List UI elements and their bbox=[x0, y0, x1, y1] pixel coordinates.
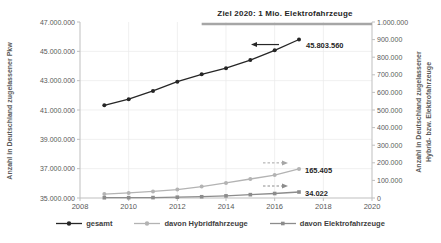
data-point bbox=[224, 66, 228, 70]
data-point bbox=[297, 190, 301, 194]
x-axis-tick-label: 2020 bbox=[364, 202, 381, 211]
data-point bbox=[151, 196, 155, 200]
legend-item-elektro: davon Elektrofahrzeuge bbox=[270, 219, 385, 228]
legend-item-gesamt: gesamt bbox=[56, 219, 112, 228]
data-point bbox=[248, 177, 252, 181]
callout-arrowhead bbox=[282, 160, 288, 165]
legend-label-gesamt: gesamt bbox=[86, 219, 112, 228]
right-axis-title-line1: Anzahl in Deutschland zugelassener bbox=[414, 2, 424, 222]
data-point bbox=[127, 196, 131, 200]
data-point bbox=[200, 195, 204, 199]
legend-sample-hybrid bbox=[134, 219, 160, 228]
right-axis-title: Anzahl in Deutschland zugelassener Hybri… bbox=[414, 2, 434, 222]
callout-elektro: 34.022 bbox=[263, 184, 328, 199]
left-axis-tick-label: 39.000.000 bbox=[40, 136, 75, 143]
data-point bbox=[224, 194, 228, 198]
data-point bbox=[297, 38, 301, 42]
x-axis-tick-label: 2010 bbox=[120, 202, 137, 211]
series-line-hybrid bbox=[104, 169, 299, 194]
data-point bbox=[151, 89, 155, 93]
tick-labels: 35.000.00037.000.00039.000.00041.000.000… bbox=[40, 19, 408, 212]
right-axis-tick-label: 200.000 bbox=[377, 159, 402, 166]
data-point bbox=[175, 80, 179, 84]
right-axis-tick-label: 100.000 bbox=[377, 177, 402, 184]
data-point bbox=[200, 72, 204, 76]
left-axis-tick-label: 45.000.000 bbox=[40, 48, 75, 55]
data-point bbox=[127, 97, 131, 101]
callout-label: 45.803.560 bbox=[306, 41, 344, 50]
left-axis-tick-label: 47.000.000 bbox=[40, 19, 75, 26]
right-axis-tick-label: 800.000 bbox=[377, 54, 402, 61]
legend-label-hybrid: davon Hybridfahrzeuge bbox=[164, 219, 247, 228]
series-hybrid bbox=[102, 167, 301, 196]
data-point bbox=[102, 192, 106, 196]
data-point bbox=[273, 48, 277, 52]
target-annotation: Ziel 2020: 1 Mio. Elektrofahrzeuge bbox=[197, 9, 373, 18]
callout-label: 165.405 bbox=[305, 166, 332, 175]
data-point bbox=[200, 185, 204, 189]
left-axis-title: Anzahl in Deutschland zugelassener Pkw bbox=[5, 1, 15, 221]
data-point bbox=[273, 173, 277, 177]
right-axis-tick-label: 700.000 bbox=[377, 71, 402, 78]
x-axis-tick-label: 2012 bbox=[169, 202, 186, 211]
data-point bbox=[127, 191, 131, 195]
right-axis-tick-label: 500.000 bbox=[377, 107, 402, 114]
legend-item-hybrid: davon Hybridfahrzeuge bbox=[134, 219, 247, 228]
x-axis-tick-label: 2016 bbox=[266, 202, 283, 211]
x-axis-tick-label: 2018 bbox=[315, 202, 332, 211]
left-axis-tick-label: 43.000.000 bbox=[40, 77, 75, 84]
data-point bbox=[102, 103, 106, 107]
plot-area: 35.000.00037.000.00039.000.00041.000.000… bbox=[0, 0, 441, 243]
x-axis-tick-label: 2014 bbox=[218, 202, 235, 211]
data-point bbox=[248, 58, 252, 62]
right-axis-tick-label: 600.000 bbox=[377, 89, 402, 96]
left-axis-tick-label: 41.000.000 bbox=[40, 107, 75, 114]
data-point bbox=[297, 167, 301, 171]
left-axis-tick-label: 35.000.000 bbox=[40, 195, 75, 202]
data-point bbox=[151, 189, 155, 193]
legend-sample-elektro bbox=[270, 219, 296, 228]
data-point bbox=[249, 193, 253, 197]
legend-sample-gesamt bbox=[56, 219, 82, 228]
vehicle-registration-chart: 35.000.00037.000.00039.000.00041.000.000… bbox=[0, 0, 441, 243]
data-point bbox=[273, 192, 277, 196]
right-axis-tick-label: 0 bbox=[377, 195, 381, 202]
legend-marker bbox=[67, 221, 71, 225]
data-point bbox=[224, 181, 228, 185]
callout-gesamt: 45.803.560 bbox=[251, 41, 344, 50]
legend-marker bbox=[281, 222, 285, 226]
data-point bbox=[176, 195, 180, 199]
x-axis-tick-label: 2008 bbox=[72, 202, 89, 211]
series-gesamt bbox=[102, 38, 301, 108]
right-axis-tick-label: 400.000 bbox=[377, 124, 402, 131]
right-axis-tick-label: 1.000.000 bbox=[377, 19, 408, 26]
data-point bbox=[103, 196, 107, 200]
right-axis-title-line2: Hybrid- bzw. Elektrofahrzeuge bbox=[424, 2, 434, 222]
legend-marker bbox=[145, 221, 149, 225]
callout-arrowhead bbox=[282, 184, 288, 189]
callout-arrowhead bbox=[251, 42, 257, 47]
right-axis-tick-label: 900.000 bbox=[377, 36, 402, 43]
left-axis-tick-label: 37.000.000 bbox=[40, 165, 75, 172]
data-point bbox=[175, 188, 179, 192]
legend-label-elektro: davon Elektrofahrzeuge bbox=[300, 219, 385, 228]
legend: gesamt davon Hybridfahrzeuge davon Elekt… bbox=[0, 219, 441, 228]
right-axis-tick-label: 300.000 bbox=[377, 142, 402, 149]
callout-label: 34.022 bbox=[305, 189, 328, 198]
